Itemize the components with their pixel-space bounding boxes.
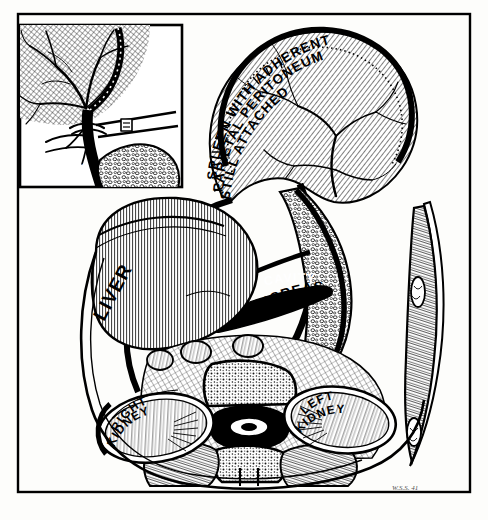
vertebral-posterior-elements bbox=[213, 446, 286, 482]
vertebral-body bbox=[204, 361, 296, 406]
crus-right bbox=[181, 341, 211, 363]
anatomical-figure: L.C. bbox=[0, 0, 488, 520]
central-canal bbox=[241, 423, 257, 431]
inset-splenic-hilum-detail: L.C. bbox=[20, 25, 182, 190]
artist-signature: W.S.S. 41 bbox=[392, 484, 418, 492]
psoas-right bbox=[147, 350, 173, 370]
crus-left bbox=[233, 335, 263, 357]
illustration-canvas: L.C. bbox=[0, 0, 488, 520]
wall-vessel-upper bbox=[411, 277, 425, 307]
